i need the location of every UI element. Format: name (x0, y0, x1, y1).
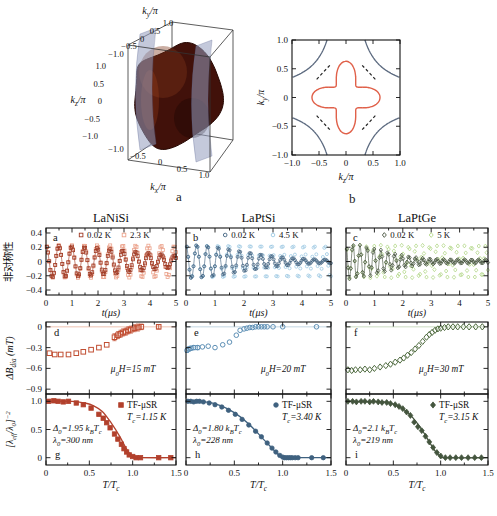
plot-frame (186, 322, 331, 394)
marker-circle (265, 441, 269, 445)
tspan: H=15 mT (118, 364, 156, 374)
marker-diamond (466, 455, 471, 461)
tc-label: Tc=3.15 K (439, 412, 479, 424)
tick-label-y: 0 (38, 322, 43, 332)
tick-label-kx: 0.5 (177, 164, 188, 174)
marker-square (134, 456, 138, 460)
legend-tf-musr: TF-μSR (439, 400, 470, 410)
axis-label-time: t(μs) (249, 307, 268, 319)
panel-letter: d (54, 327, 60, 338)
lambda-label: λ0=228 nm (192, 435, 233, 447)
tick-label-kx: −0.5 (130, 151, 145, 161)
tspan: [λ (5, 440, 15, 448)
tspan: 4 (148, 298, 153, 308)
tspan: 1.0 (277, 468, 289, 478)
marker-square (79, 233, 83, 237)
tick-label-y: 1.0 (31, 396, 43, 406)
tspan: 1.0 (127, 468, 139, 478)
corner-contour (365, 40, 400, 77)
tspan: 2 (401, 298, 406, 308)
marker-diamond (411, 276, 414, 280)
marker-diamond (372, 365, 377, 371)
tick-label-x: 5 (174, 298, 179, 308)
star-contour (312, 61, 380, 133)
tick-label-y: 0 (38, 453, 43, 463)
axis-label-kx: kx/π (150, 181, 166, 195)
tspan: 0 (284, 93, 289, 103)
marker-square (66, 352, 71, 357)
marker-square (138, 456, 142, 460)
marker-circle (309, 267, 312, 270)
corner-contour (365, 118, 400, 155)
axis-label-x: kz/π (338, 171, 354, 185)
panel-letter: f (354, 327, 358, 338)
marker-diamond (416, 424, 421, 430)
tick-label-kz: −1.0 (83, 131, 98, 141)
tick-label-y: −0.2 (26, 271, 42, 281)
tick-label-x: 2 (401, 298, 406, 308)
tspan: =1.95 k (62, 423, 91, 433)
marker-circle (299, 267, 302, 270)
box-edge (172, 22, 233, 30)
marker-circle (220, 343, 225, 348)
marker-diamond (443, 455, 448, 461)
tick-label-kx: 0 (158, 157, 162, 167)
tspan: 1.0 (394, 158, 406, 168)
tspan: 0.5 (93, 79, 104, 89)
tspan: 0.5 (367, 158, 379, 168)
marker-square (112, 432, 116, 436)
tspan: −2 (4, 411, 11, 420)
tspan: f (354, 327, 358, 338)
tspan: =228 nm (200, 435, 233, 445)
corner-contour (293, 118, 328, 155)
marker-circle (220, 405, 224, 409)
marker-square (104, 343, 109, 348)
tspan: 0.5 (388, 468, 400, 478)
tspan: −1.0 (83, 131, 98, 141)
marker-diamond (418, 272, 421, 276)
tspan: 3 (429, 298, 434, 308)
marker-diamond (467, 275, 470, 279)
tspan: c (422, 485, 426, 493)
marker-diamond (455, 250, 458, 254)
marker-diamond (390, 276, 393, 280)
marker-circle (247, 423, 251, 427)
tspan: 1.0 (277, 35, 289, 45)
gap-label: Δ0=2.1 kBTc (352, 423, 397, 435)
axis-label-y: ky/π (255, 89, 269, 105)
tick-label-x: 0.5 (388, 468, 400, 478)
tspan: t(μs) (102, 307, 121, 319)
marker-circle (271, 233, 275, 237)
axis-label-superfluid: [λeff/λ0]−2 (4, 411, 17, 448)
tspan: c (99, 428, 102, 435)
tspan: −0.5 (311, 158, 328, 168)
tspan: −0.9 (26, 384, 43, 394)
tspan: 0 (44, 298, 49, 308)
nodal-dash (316, 65, 330, 80)
marker-square (66, 399, 70, 403)
marker-circle (226, 408, 230, 412)
marker-square (47, 351, 52, 356)
marker-diamond (400, 243, 403, 247)
tick-label-y: −1.0 (272, 150, 289, 160)
tspan: 1.0 (95, 61, 106, 71)
marker-diamond (465, 269, 468, 273)
tick-label-y: −0.9 (26, 384, 43, 394)
tspan: 1.5 (170, 468, 182, 478)
tspan: /π (149, 5, 159, 16)
tick-label-y: −0.5 (272, 121, 289, 131)
marker-square (97, 345, 102, 350)
marker-square (61, 400, 65, 404)
asymmetry-panel-laptge: 012345t(μs)c0.02 K5 K (344, 228, 491, 319)
marker-square (81, 350, 86, 355)
marker-diamond (394, 244, 397, 248)
tick-label-x: −0.5 (311, 158, 328, 168)
marker-diamond (475, 268, 478, 272)
tspan: 1.5 (325, 468, 337, 478)
marker-circle (213, 403, 217, 407)
marker-square (101, 416, 105, 420)
marker-circle (234, 333, 239, 338)
superfluid-density-panel-laptsi: 00.51.01.5TF-μSRTc=3.40 KΔ0=1.80 kBTcλ0=… (184, 394, 337, 493)
tick-label-x: 0 (184, 468, 189, 478)
marker-circle (206, 344, 211, 349)
